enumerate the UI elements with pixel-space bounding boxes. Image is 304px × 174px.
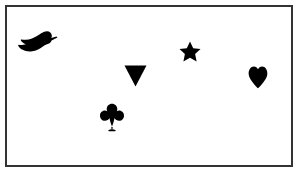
duck-icon [18,30,58,54]
image-frame [5,5,293,167]
star-icon [179,41,201,62]
heart-icon [248,65,268,89]
triangle-shape[interactable] [124,65,147,87]
club-shape[interactable] [100,103,124,132]
duck-shape[interactable] [18,30,58,54]
star-shape[interactable] [179,41,201,62]
shape-array-canvas [0,0,304,174]
heart-shape[interactable] [248,65,268,89]
triangle-down-icon [124,65,147,87]
club-icon [100,103,124,132]
